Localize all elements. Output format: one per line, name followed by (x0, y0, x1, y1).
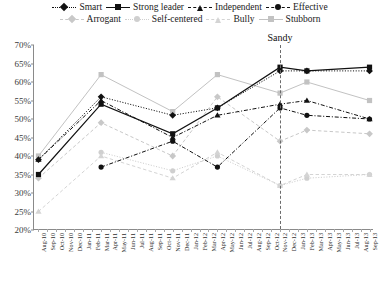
legend-item-arrogant[interactable]: Arrogant (60, 14, 125, 25)
data-point (215, 72, 220, 77)
x-axis-tick-mark (119, 229, 120, 232)
data-point (304, 79, 309, 84)
y-axis-tick-mark (31, 156, 34, 157)
legend-label: Strong leader (130, 2, 188, 13)
x-axis-tick-mark (298, 229, 299, 232)
x-axis-tick-label: May-13 (336, 233, 342, 253)
legend-swatch-independent (188, 2, 212, 13)
x-axis-tick-mark (164, 229, 165, 232)
x-axis-tick-mark (307, 229, 308, 232)
legend-label: Smart (76, 2, 106, 13)
legend-label: Effective (290, 2, 332, 13)
series-line (38, 67, 369, 174)
series-line (101, 108, 369, 167)
legend-swatch-stubborn (259, 14, 283, 25)
sandy-event-line (280, 45, 281, 229)
x-axis-tick-mark (226, 229, 227, 232)
legend-item-stubborn[interactable]: Stubborn (259, 14, 325, 25)
x-axis-tick-label: Mar-13 (318, 233, 324, 251)
x-axis-tick-mark (47, 229, 48, 232)
sandy-event-label: Sandy (268, 32, 293, 43)
plot-area: 20%25%30%35%40%45%50%55%60%65%70%Aug-10S… (33, 45, 373, 230)
x-axis-tick-mark (262, 229, 263, 232)
data-point (214, 149, 220, 154)
x-axis-tick-label: Dec-11 (184, 233, 190, 251)
x-axis-tick-mark (128, 229, 129, 232)
x-axis-tick-label: Sep-11 (157, 233, 163, 250)
y-axis-tick-mark (31, 82, 34, 83)
x-axis-tick-mark (208, 229, 209, 232)
x-axis-tick-mark (244, 229, 245, 232)
x-axis-tick-label: Aug-12 (256, 233, 262, 252)
data-point (98, 98, 104, 103)
x-axis-tick-label: Nov-11 (175, 233, 181, 252)
data-point (304, 113, 309, 118)
x-axis-tick-mark (92, 229, 93, 232)
x-axis-tick-label: Apr-12 (220, 233, 226, 251)
data-point (366, 130, 373, 137)
legend-swatch-arrogant (60, 14, 84, 25)
legend-item-self_centered[interactable]: Self-centered (125, 14, 207, 25)
data-point (99, 165, 104, 170)
legend-row: ArrogantSelf-centeredBullyStubborn (60, 14, 325, 25)
x-axis-tick-mark (182, 229, 183, 232)
legend-label: Arrogant (84, 14, 125, 25)
series-line (38, 97, 369, 178)
legend-label: Independent (212, 2, 266, 13)
x-axis-tick-label: Nov-10 (68, 233, 74, 252)
x-axis-tick-label: Mar-12 (211, 233, 217, 251)
series-bully (35, 149, 372, 213)
x-axis-tick-mark (361, 229, 362, 232)
y-axis-tick-mark (31, 45, 34, 46)
x-axis-tick-label: Dec-10 (77, 233, 83, 251)
series-effective (99, 105, 373, 169)
x-axis-tick-label: Apr-11 (112, 233, 118, 251)
legend-item-bully[interactable]: Bully (206, 14, 258, 25)
x-axis-tick-mark (38, 229, 39, 232)
x-axis-tick-label: Apr-13 (327, 233, 333, 251)
chart-root: SmartStrong leaderIndependentEffectiveAr… (0, 0, 384, 287)
x-axis-tick-mark (200, 229, 201, 232)
data-point (367, 116, 372, 121)
data-point (304, 98, 310, 103)
legend-item-smart[interactable]: Smart (52, 2, 106, 13)
x-axis-tick-mark (370, 229, 371, 232)
x-axis-tick-mark (235, 229, 236, 232)
legend-label: Self-centered (149, 14, 207, 25)
data-point (170, 168, 175, 173)
y-axis-tick-mark (31, 193, 34, 194)
data-point (169, 153, 176, 160)
x-axis-tick-label: May-11 (121, 233, 127, 252)
x-axis-tick-label: Jan-11 (86, 233, 92, 249)
x-axis-tick-mark (289, 229, 290, 232)
legend-label: Bully (230, 14, 258, 25)
legend-swatch-bully (206, 14, 230, 25)
x-axis-tick-label: Nov-12 (282, 233, 288, 252)
series-line (38, 152, 369, 211)
data-point (367, 65, 372, 70)
data-point (170, 175, 176, 180)
data-point (304, 68, 309, 73)
legend-label: Stubborn (283, 14, 325, 25)
x-axis-tick-mark (137, 229, 138, 232)
x-axis-tick-mark (343, 229, 344, 232)
legend-swatch-smart (52, 2, 76, 13)
x-axis-tick-label: Oct-12 (274, 233, 280, 250)
x-axis-tick-label: Aug-11 (148, 233, 154, 252)
x-axis-tick-label: Jun-11 (130, 233, 136, 250)
legend-swatch-self_centered (125, 14, 149, 25)
x-axis-tick-mark (334, 229, 335, 232)
series-line (101, 152, 369, 185)
legend-item-independent[interactable]: Independent (188, 2, 266, 13)
x-axis-tick-label: Jun-13 (345, 233, 351, 250)
x-axis-tick-label: Feb-12 (202, 233, 208, 251)
y-axis-tick-mark (31, 174, 34, 175)
x-axis-tick-mark (253, 229, 254, 232)
legend-item-effective[interactable]: Effective (266, 2, 332, 13)
data-point (367, 98, 372, 103)
legend-item-strong_leader[interactable]: Strong leader (106, 2, 188, 13)
x-axis-tick-label: Jul-13 (354, 233, 360, 248)
data-point (304, 172, 310, 177)
data-point (215, 165, 220, 170)
x-axis-tick-label: May-12 (229, 233, 235, 253)
